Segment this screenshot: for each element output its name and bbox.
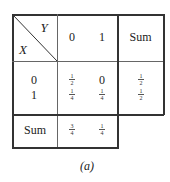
cell-0-0: 12 (67, 73, 77, 86)
row-variable-label: X (17, 44, 29, 56)
sum-row-label: Sum (13, 124, 57, 136)
table-right-border (163, 14, 165, 115)
row-sum-0: 12 (136, 73, 146, 86)
col-header-1: 1 (96, 31, 108, 43)
figure-caption: (a) (72, 160, 102, 172)
row-label-0: 0 (28, 74, 40, 86)
col-sum-1: 14 (97, 123, 107, 136)
cell-1-1: 14 (97, 88, 107, 101)
sum-col-header: Sum (118, 31, 163, 43)
body-bottom-line (12, 114, 164, 116)
cell-1-0: 14 (67, 88, 77, 101)
sum-row-bottom-line (12, 147, 119, 149)
row-sum-1: 12 (136, 88, 146, 101)
col-header-0: 0 (66, 31, 78, 43)
col-variable-label: Y (38, 22, 50, 34)
cell-0-1: 0 (96, 74, 108, 86)
row-label-1: 1 (28, 89, 40, 101)
col-sum-0: 34 (67, 123, 77, 136)
